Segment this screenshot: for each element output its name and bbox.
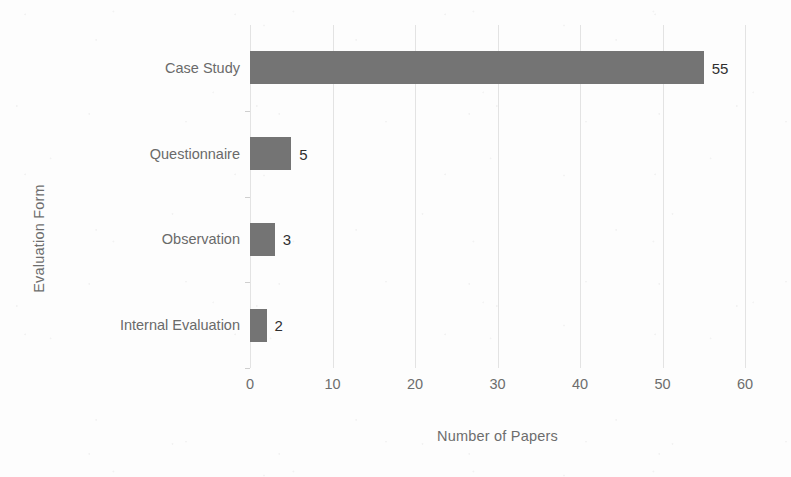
x-tick-label-0: 0 xyxy=(228,376,272,392)
bar-chart-figure: Evaluation Form Number of Papers 0102030… xyxy=(0,0,791,477)
bar-value-label: 55 xyxy=(712,59,729,76)
bar-observation[interactable] xyxy=(250,223,275,256)
y-tick-mark xyxy=(245,197,250,198)
gridline-x-60 xyxy=(745,25,746,368)
bar-value-label: 2 xyxy=(275,317,283,334)
bar-value-label: 3 xyxy=(283,231,291,248)
bar-row[interactable] xyxy=(250,223,275,256)
x-tick-label-40: 40 xyxy=(558,376,602,392)
y-tick-mark xyxy=(245,111,250,112)
bar-row[interactable] xyxy=(250,51,704,84)
category-label-observation: Observation xyxy=(20,231,240,247)
x-tick-label-10: 10 xyxy=(311,376,355,392)
x-tick-label-50: 50 xyxy=(641,376,685,392)
x-tick-label-20: 20 xyxy=(393,376,437,392)
bar-internal-evaluation[interactable] xyxy=(250,309,267,342)
bar-row[interactable] xyxy=(250,309,267,342)
category-label-internal-evaluation: Internal Evaluation xyxy=(20,317,240,333)
y-tick-mark xyxy=(245,368,250,369)
y-tick-mark xyxy=(245,282,250,283)
category-label-questionnaire: Questionnaire xyxy=(20,146,240,162)
x-axis-title: Number of Papers xyxy=(250,428,745,444)
bar-questionnaire[interactable] xyxy=(250,137,291,170)
category-label-case-study: Case Study xyxy=(20,60,240,76)
bar-row[interactable] xyxy=(250,137,291,170)
bar-case-study[interactable] xyxy=(250,51,704,84)
bar-value-label: 5 xyxy=(299,145,307,162)
x-tick-label-30: 30 xyxy=(476,376,520,392)
x-tick-label-60: 60 xyxy=(723,376,767,392)
